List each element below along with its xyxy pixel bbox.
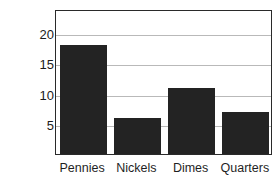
bar-chart-figure: NUMBER OF COINS 5101520 PenniesNickelsDi… xyxy=(0,0,280,195)
bar-nickels xyxy=(114,118,161,154)
bar-dimes xyxy=(168,88,215,154)
category-label-dimes: Dimes xyxy=(164,158,218,178)
y-tick-label: 20 xyxy=(26,28,54,41)
x-axis-category-labels: PenniesNickelsDimesQuarters xyxy=(55,158,272,180)
category-label-pennies: Pennies xyxy=(55,158,109,178)
plot-area xyxy=(55,10,272,155)
bar-pennies xyxy=(60,45,107,154)
bar-quarters xyxy=(222,112,269,154)
y-tick-label: 10 xyxy=(26,88,54,101)
category-label-quarters: Quarters xyxy=(218,158,272,178)
y-tick-label: 15 xyxy=(26,58,54,71)
y-axis-tick-labels: 5101520 xyxy=(26,10,54,155)
bars-layer xyxy=(56,11,271,154)
category-label-nickels: Nickels xyxy=(109,158,163,178)
y-tick-label: 5 xyxy=(26,118,54,131)
